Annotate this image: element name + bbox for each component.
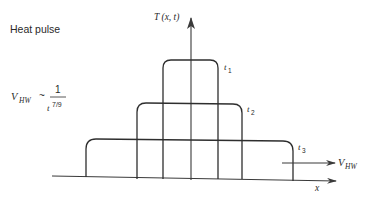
pulse-t1-label: t bbox=[224, 62, 227, 72]
formula-lhs: V bbox=[11, 91, 19, 102]
diagram-svg: Heat pulse V HW ~ 1 t 7/9 T (x, t) x t 1… bbox=[0, 0, 368, 217]
formula-denominator-base: t bbox=[47, 103, 50, 113]
pulse-t3-label: t bbox=[298, 142, 301, 152]
pulse-t1-sub: 1 bbox=[228, 67, 232, 74]
pulse-t3-sub: 3 bbox=[302, 147, 306, 154]
formula-relation: ~ bbox=[39, 90, 45, 101]
x-axis-label: x bbox=[314, 183, 320, 193]
pulse-t2-label: t bbox=[247, 104, 250, 114]
y-axis-label: T (x, t) bbox=[154, 12, 179, 23]
heat-pulse-diagram: Heat pulse V HW ~ 1 t 7/9 T (x, t) x t 1… bbox=[0, 0, 368, 217]
pulse-t3 bbox=[86, 139, 293, 181]
velocity-formula: V HW ~ 1 t 7/9 bbox=[11, 84, 66, 113]
formula-denominator-exp: 7/9 bbox=[52, 101, 62, 108]
velocity-label-sub: HW bbox=[344, 162, 357, 171]
formula-numerator: 1 bbox=[55, 84, 61, 95]
formula-lhs-sub: HW bbox=[18, 96, 31, 105]
diagram-title: Heat pulse bbox=[10, 23, 60, 35]
pulse-t2-sub: 2 bbox=[251, 109, 255, 116]
